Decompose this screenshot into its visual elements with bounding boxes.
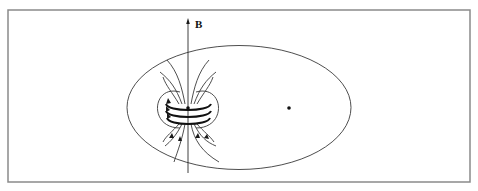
right-focus-dot <box>287 106 291 110</box>
b-axis-label: B <box>195 18 203 30</box>
diagram-figure: B <box>0 0 478 191</box>
figure-frame <box>8 10 470 182</box>
left-focus-dot <box>186 106 190 110</box>
